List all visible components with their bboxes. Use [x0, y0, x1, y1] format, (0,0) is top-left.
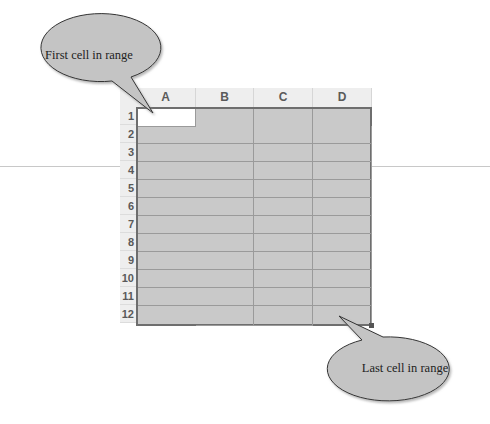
first-cell-callout — [41, 14, 161, 113]
first-cell-callout-label: First cell in range — [45, 48, 133, 62]
last-cell-callout — [327, 316, 449, 401]
callout-layer: First cell in range Last cell in range — [0, 0, 490, 424]
last-cell-callout-label: Last cell in range — [362, 361, 449, 375]
